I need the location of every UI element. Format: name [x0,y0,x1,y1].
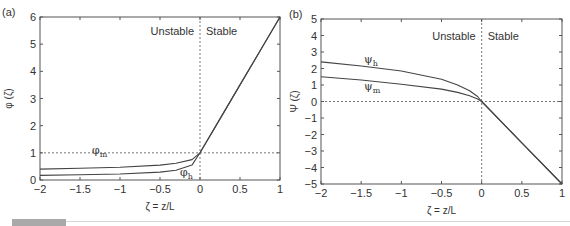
y-tick-label: 4 [30,65,36,77]
panel-label: (a) [2,6,15,18]
x-tick-label: 0 [479,187,485,199]
curve-label-ψh: ψh [364,53,378,68]
y-axis-label: φ (ζ) [3,88,15,108]
y-axis-label: Ψ (ζ) [289,90,301,112]
x-tick-label: −1 [114,183,127,195]
figure-canvas: (a)−2−1.5−1−0.500.510123456UnstableStabl… [0,0,570,226]
y-tick-label: −1 [304,112,317,124]
y-tick-label: −5 [304,178,317,190]
x-tick-label: −1.5 [69,183,91,195]
series-ψm [321,77,562,184]
chart-panel-b: (b)−2−1.5−1−0.500.51−5−4−3−2−1012345Unst… [289,8,565,217]
curve-label-φh: φh [180,166,193,181]
x-tick-label: −0.5 [431,187,453,199]
x-tick-label: −0.5 [149,183,171,195]
y-tick-label: 5 [311,13,317,25]
region-label-unstable: Unstable [432,30,475,42]
y-tick-label: 2 [311,63,317,75]
y-tick-label: 2 [30,120,36,132]
x-tick-label: −1.5 [350,187,372,199]
x-axis-label: ζ = z/L [145,201,175,213]
curve-label-φm: φm [92,144,108,159]
footer-accent-bar [12,219,66,226]
x-tick-label: 1 [559,187,565,199]
chart-panel-a: (a)−2−1.5−1−0.500.510123456UnstableStabl… [2,6,283,213]
x-tick-label: 0.5 [514,187,529,199]
panel-label: (b) [289,8,302,20]
y-tick-label: 0 [30,174,36,186]
y-tick-label: −3 [304,145,317,157]
series-φm [40,17,280,169]
y-tick-label: 1 [30,147,36,159]
x-tick-label: 0.5 [232,183,247,195]
plot-frame [40,17,280,180]
region-label-unstable: Unstable [151,25,194,37]
y-tick-label: 5 [30,38,36,50]
y-tick-label: 0 [311,96,317,108]
y-tick-label: 3 [311,46,317,58]
x-tick-label: −1 [395,187,408,199]
region-label-stable: Stable [206,25,237,37]
y-tick-label: −4 [304,162,317,174]
x-axis-label: ζ = z/L [427,205,457,217]
y-tick-label: 1 [311,79,317,91]
x-tick-label: 0 [197,183,203,195]
series-φh [40,17,280,175]
x-tick-label: 1 [277,183,283,195]
y-tick-label: 6 [30,11,36,23]
y-tick-label: −2 [304,129,317,141]
footer-divider [66,221,570,222]
region-label-stable: Stable [488,30,519,42]
y-tick-label: 3 [30,93,36,105]
y-tick-label: 4 [311,30,317,42]
